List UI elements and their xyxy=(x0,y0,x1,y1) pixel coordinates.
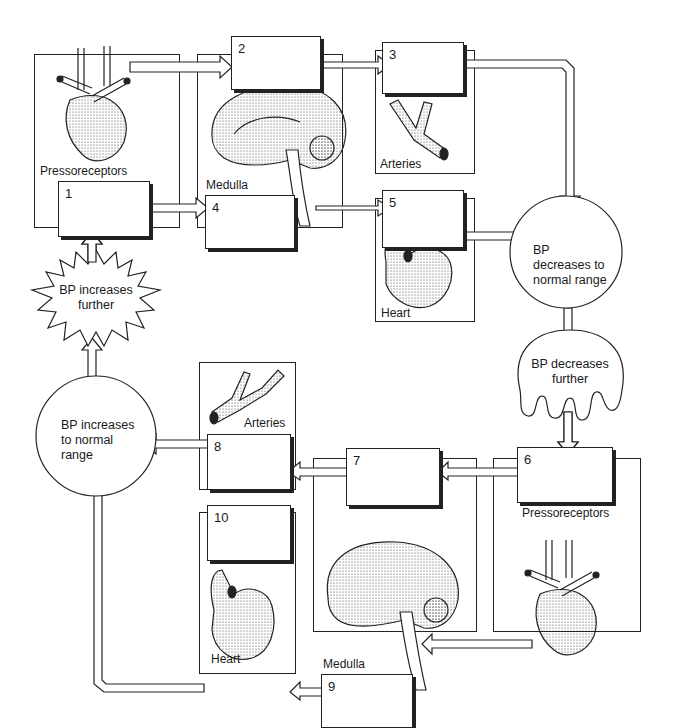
answer-box-3[interactable]: 3 xyxy=(382,42,464,94)
box-number: 10 xyxy=(214,510,228,525)
bp-increases-normal-text: BP increases to normal range xyxy=(61,418,141,463)
answer-box-9[interactable]: 9 xyxy=(321,674,413,728)
answer-box-5[interactable]: 5 xyxy=(382,190,464,248)
label-medulla-top: Medulla xyxy=(206,178,248,192)
label-heart-top: Heart xyxy=(381,306,410,320)
answer-box-4[interactable]: 4 xyxy=(205,195,295,249)
heart-vessels-illustration-top xyxy=(57,46,130,161)
label-medulla-bottom: Medulla xyxy=(323,657,365,671)
label-pressoreceptors-bottom: Pressoreceptors xyxy=(522,506,609,520)
box-number: 5 xyxy=(389,195,396,210)
answer-box-6[interactable]: 6 xyxy=(517,447,613,503)
artery-illustration-top xyxy=(390,100,448,160)
heart-vessels-illustration-bottom xyxy=(525,540,599,655)
answer-box-1[interactable]: 1 xyxy=(58,181,150,237)
answer-box-2[interactable]: 2 xyxy=(231,36,321,90)
box-number: 4 xyxy=(212,200,219,215)
box-number: 8 xyxy=(214,439,221,454)
box-number: 6 xyxy=(524,452,531,467)
bp-decreases-further-text: BP decreases further xyxy=(525,357,615,387)
answer-box-10[interactable]: 10 xyxy=(207,505,291,561)
box-number: 1 xyxy=(65,186,72,201)
label-arteries-bottom: Arteries xyxy=(244,416,285,430)
answer-box-8[interactable]: 8 xyxy=(207,434,291,490)
bp-increases-further-text: BP increases further xyxy=(46,283,146,313)
box-number: 9 xyxy=(328,679,335,694)
bp-decreases-normal-text: BP decreases to normal range xyxy=(533,243,609,288)
box-number: 2 xyxy=(238,41,245,56)
label-arteries-top: Arteries xyxy=(380,157,421,171)
answer-box-7[interactable]: 7 xyxy=(346,448,440,506)
label-pressoreceptors-top: Pressoreceptors xyxy=(40,164,127,178)
heart-illustration-bottom xyxy=(211,570,274,659)
label-heart-bottom: Heart xyxy=(211,652,240,666)
box-number: 3 xyxy=(389,47,396,62)
box-number: 7 xyxy=(353,453,360,468)
